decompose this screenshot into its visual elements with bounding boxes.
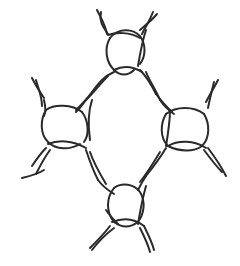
left-node	[22, 78, 92, 178]
knot-drawing	[0, 0, 240, 266]
right-node	[162, 80, 226, 176]
knot-diagram	[0, 0, 240, 266]
top-right-arm	[140, 70, 174, 114]
top-left-arm	[76, 72, 114, 112]
bottom-right-arm	[138, 148, 166, 190]
bottom-node	[90, 185, 154, 252]
top-node	[97, 10, 157, 75]
bottom-left-arm	[86, 150, 114, 194]
